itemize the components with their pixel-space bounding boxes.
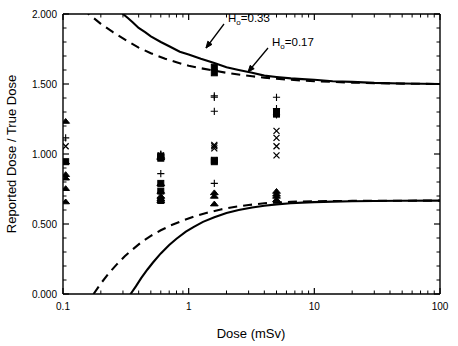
y-tick-label: 1.500	[32, 79, 57, 90]
data-point-square	[158, 180, 164, 186]
data-point-square	[158, 197, 164, 203]
data-point-x	[274, 143, 280, 149]
data-point-square	[211, 64, 217, 70]
data-point-x	[274, 128, 280, 134]
y-axis-ticks	[63, 14, 440, 294]
data-point-square	[211, 70, 217, 76]
y-tick-label: 0.000	[32, 289, 57, 300]
data-point-square	[63, 159, 69, 165]
data-point-plus	[211, 180, 218, 187]
x-tick-label: 10	[309, 301, 321, 312]
y-tick-label: 2.000	[32, 9, 57, 20]
data-point-x	[274, 152, 280, 158]
data-point-markers	[62, 64, 281, 206]
y-tick-label: 1.000	[32, 149, 57, 160]
annotation-ho-017: Ho=0.17	[248, 36, 314, 72]
annotation-ho-033-label: Ho=0.33	[228, 12, 270, 27]
curve-solid-lower	[131, 201, 440, 294]
data-point-plus	[273, 94, 280, 101]
model-curves	[63, 0, 440, 294]
data-point-plus	[211, 94, 218, 101]
scatter-plot-svg: 0.0000.5001.0001.5002.000 0.1110100 Ho=0…	[0, 0, 458, 346]
annotation-ho-033: Ho=0.33	[206, 12, 270, 48]
chart-figure: 0.0000.5001.0001.5002.000 0.1110100 Ho=0…	[0, 0, 458, 346]
x-tick-label: 1	[186, 301, 192, 312]
x-axis-tick-labels: 0.1110100	[56, 301, 449, 312]
plot-frame	[63, 14, 440, 294]
curve-dashed-lower	[94, 201, 440, 294]
y-tick-label: 0.500	[32, 219, 57, 230]
data-point-square	[158, 188, 164, 194]
y-axis-title: Reported Dose / True Dose	[4, 75, 19, 233]
annotation-ho-017-label: Ho=0.17	[272, 36, 314, 51]
x-tick-label: 0.1	[56, 301, 70, 312]
data-point-plus	[211, 108, 218, 115]
x-tick-label: 100	[432, 301, 449, 312]
x-axis-title: Dose (mSv)	[217, 326, 286, 341]
x-axis-ticks	[63, 14, 440, 294]
data-point-triangle	[210, 201, 218, 206]
y-axis-tick-labels: 0.0000.5001.0001.5002.000	[32, 9, 57, 300]
data-point-plus	[157, 170, 164, 177]
data-point-x	[274, 135, 280, 141]
